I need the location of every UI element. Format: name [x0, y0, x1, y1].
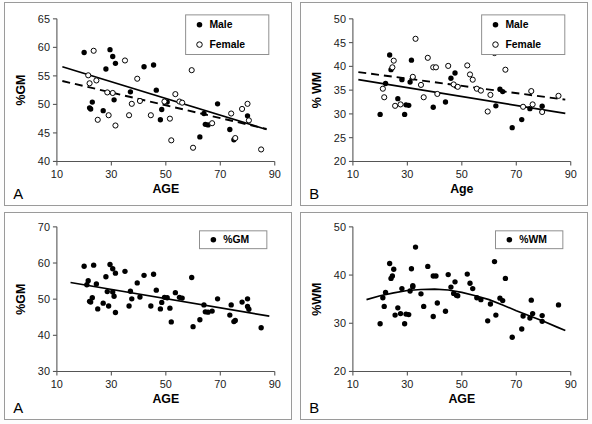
- x-tick-label: 10: [347, 168, 359, 180]
- y-tick-label: 25: [334, 132, 346, 144]
- y-tick-label: 40: [334, 269, 346, 281]
- y-tick-label: 50: [38, 98, 50, 110]
- x-tick-label: 30: [401, 378, 413, 390]
- y-tick-label: 50: [38, 293, 50, 305]
- legend-marker: [493, 22, 499, 28]
- data-point: [485, 318, 490, 323]
- trend-line: [62, 81, 266, 129]
- data-point: [190, 145, 195, 150]
- data-point: [382, 95, 387, 100]
- data-point: [158, 117, 163, 122]
- data-point: [167, 306, 172, 311]
- y-tick-label: 20: [334, 365, 346, 377]
- panel-top-right: 202530354045501030507090Age% WMMaleFemal…: [300, 2, 588, 206]
- data-point: [148, 303, 153, 308]
- x-tick-label: 90: [565, 378, 577, 390]
- data-point: [154, 87, 159, 92]
- scatter-plot-top-right: 202530354045501030507090Age% WMMaleFemal…: [301, 3, 587, 205]
- data-point: [539, 313, 544, 318]
- data-point: [425, 264, 430, 269]
- y-tick-label: 45: [334, 37, 346, 49]
- data-point: [105, 289, 110, 294]
- data-point: [180, 100, 185, 105]
- x-tick-label: 90: [269, 168, 281, 180]
- scatter-plot-bottom-right: 203040501030507090AGE%WM%WMB: [301, 213, 587, 419]
- data-point: [377, 321, 382, 326]
- data-point: [215, 101, 220, 106]
- data-point: [227, 127, 232, 132]
- data-point: [435, 91, 440, 96]
- data-point: [398, 102, 403, 107]
- data-point: [530, 311, 535, 316]
- x-tick-label: 50: [160, 168, 172, 180]
- x-tick-label: 70: [510, 168, 522, 180]
- data-point: [402, 112, 407, 117]
- x-tick-label: 50: [456, 168, 468, 180]
- data-point: [245, 296, 250, 301]
- data-point: [141, 273, 146, 278]
- data-point: [229, 111, 234, 116]
- panel-letter: B: [309, 400, 319, 416]
- data-point: [395, 305, 400, 310]
- x-axis-title: AGE: [152, 392, 179, 406]
- x-tick-label: 70: [214, 378, 226, 390]
- y-tick-label: 50: [334, 221, 346, 233]
- legend-label: Male: [209, 19, 232, 30]
- data-point: [455, 293, 460, 298]
- data-point: [245, 101, 250, 106]
- figure-container: 4045505560651030507090AGE%GMMaleFemaleA …: [0, 0, 592, 424]
- x-axis-title: Age: [450, 182, 473, 196]
- x-tick-label: 30: [105, 168, 117, 180]
- data-point: [493, 103, 498, 108]
- data-point: [402, 321, 407, 326]
- data-point: [105, 90, 110, 95]
- data-point: [201, 111, 206, 116]
- data-point: [107, 47, 112, 52]
- x-tick-label: 50: [456, 378, 468, 390]
- data-point: [189, 68, 194, 73]
- x-tick-label: 30: [105, 378, 117, 390]
- data-point: [383, 290, 388, 295]
- data-point: [111, 97, 116, 102]
- panel-letter: A: [13, 400, 23, 416]
- data-point: [433, 65, 438, 70]
- legend-marker: [507, 237, 513, 243]
- data-point: [413, 244, 418, 249]
- data-point: [392, 312, 397, 317]
- data-point: [448, 284, 453, 289]
- data-point: [485, 109, 490, 114]
- data-point: [519, 326, 524, 331]
- data-point: [239, 106, 244, 111]
- data-point: [470, 286, 475, 291]
- panel-top-left: 4045505560651030507090AGE%GMMaleFemaleA: [4, 2, 292, 206]
- data-point: [410, 74, 415, 79]
- data-point: [421, 304, 426, 309]
- data-point: [189, 275, 194, 280]
- data-point: [258, 325, 263, 330]
- data-point: [122, 58, 127, 63]
- data-point: [113, 61, 118, 66]
- trend-line: [358, 72, 565, 100]
- data-point: [382, 304, 387, 309]
- data-point: [122, 269, 127, 274]
- data-point: [210, 121, 215, 126]
- data-point: [390, 65, 395, 70]
- data-point: [510, 125, 515, 130]
- data-point: [229, 302, 234, 307]
- data-point: [239, 299, 244, 304]
- legend-marker: [211, 237, 217, 243]
- data-point: [377, 112, 382, 117]
- data-point: [500, 89, 505, 94]
- data-point: [395, 96, 400, 101]
- y-tick-label: 60: [38, 41, 50, 53]
- data-point: [209, 308, 214, 313]
- data-point: [470, 77, 475, 82]
- trend-line: [358, 80, 565, 114]
- data-point: [529, 89, 534, 94]
- y-tick-label: 40: [38, 329, 50, 341]
- data-point: [137, 98, 142, 103]
- data-point: [410, 284, 415, 289]
- data-point: [413, 36, 418, 41]
- y-tick-label: 45: [38, 127, 50, 139]
- scatter-plot-bottom-left: 30405060701030507090AGE%GM%GMA: [5, 213, 291, 419]
